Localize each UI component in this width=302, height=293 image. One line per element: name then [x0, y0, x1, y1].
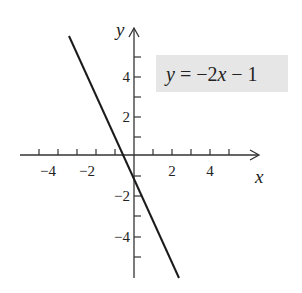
y-ticks	[134, 57, 141, 257]
equation-label: y = −2x − 1	[164, 63, 258, 86]
y-axis-label: y	[114, 19, 125, 40]
x-tick-label: −4	[40, 163, 56, 179]
x-tick-label: 4	[206, 163, 214, 179]
y-tick-label: 2	[123, 109, 131, 125]
x-tick-label: 2	[168, 163, 176, 179]
chart: y = −2x − 1 −4 −2 2 4 4 2 −2 −4	[0, 0, 302, 293]
x-tick-label: −2	[79, 163, 95, 179]
x-axis-label: x	[254, 166, 264, 187]
y-tick-label: 4	[123, 69, 131, 85]
line-graph: y = −2x − 1 −4 −2 2 4 4 2 −2 −4	[0, 0, 302, 293]
y-tick-label: −2	[114, 188, 130, 204]
y-tick-label: −4	[114, 229, 130, 245]
